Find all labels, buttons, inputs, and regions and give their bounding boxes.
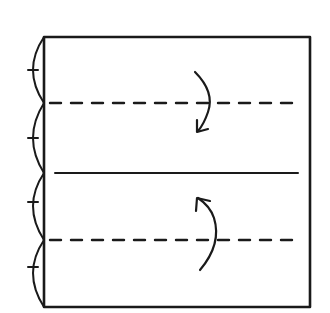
division-arc-3 <box>33 173 44 240</box>
division-arc-4 <box>33 240 44 307</box>
fold-up-arrowhead <box>196 198 210 211</box>
fold-up-arrow-shaft <box>198 198 216 270</box>
division-marks <box>28 37 44 307</box>
origami-fold-diagram <box>0 0 330 313</box>
fold-up-arrow-icon <box>196 198 216 270</box>
